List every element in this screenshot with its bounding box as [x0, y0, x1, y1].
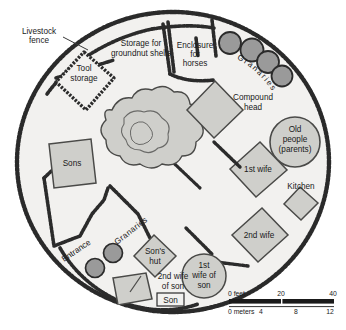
tool-storage-line1: Tool: [76, 64, 91, 73]
scale-meters-tick-4: 4: [259, 308, 263, 315]
scale-meters-tick-8: 8: [294, 308, 298, 315]
old-people-line2: people: [283, 135, 308, 144]
granary-circle: [219, 32, 241, 54]
horses-line3: horses: [183, 59, 208, 68]
granary-circle: [104, 244, 123, 263]
granary-circle: [86, 259, 105, 278]
groundnut-line1: Storage for: [121, 39, 162, 48]
second-wife-of-son-structure: [113, 273, 152, 305]
label-second-wife-of-son: 2nd wife of son: [158, 272, 189, 291]
scale-meters-tick-12: 12: [326, 308, 334, 315]
scale-feet-label: 0 feet: [228, 290, 245, 297]
scale-bar-midtick: [281, 298, 282, 305]
groundnut-line2: groundnut shells: [111, 49, 171, 58]
label-livestock-fence: Livestock fence: [22, 27, 57, 45]
compound-head-line1: Compound: [233, 93, 274, 102]
scale-feet-tick-20: 20: [277, 290, 285, 297]
scale-feet-tick-40: 40: [329, 290, 337, 297]
second-wife-of-son-line1: 2nd wife: [158, 272, 189, 281]
first-wife-of-son-line3: son: [197, 281, 211, 290]
first-wife-of-son-line1: 1st: [199, 261, 211, 270]
label-second-wife: 2nd wife: [244, 231, 275, 240]
compound-head-line2: head: [244, 103, 263, 112]
livestock-fence-line1: Livestock: [22, 27, 57, 36]
old-people-line3: (parents): [279, 145, 312, 154]
horses-line1: Enclosure: [177, 41, 214, 50]
label-son-boxed: Son: [157, 293, 184, 306]
old-people-line1: Old: [289, 125, 302, 134]
label-sons: Sons: [63, 159, 82, 168]
horses-line2: for: [190, 50, 200, 59]
first-wife-of-son-line2: wife of: [191, 271, 216, 280]
sons-hut-line1: Son's: [145, 247, 165, 256]
sons-hut-line2: hut: [149, 257, 161, 266]
tool-storage-line2: storage: [70, 74, 98, 83]
label-kitchen: Kitchen: [287, 182, 315, 191]
livestock-fence-line2: fence: [29, 36, 49, 45]
second-wife-of-son-line2: of son: [162, 282, 185, 291]
label-first-wife: 1st wife: [244, 165, 272, 174]
compound-map-figure: Livestock fence Tool storage Storage for…: [0, 0, 346, 330]
son-text: Son: [163, 296, 178, 305]
scale-meters-label: 0 meters: [228, 308, 255, 315]
compound-plan-svg: Livestock fence Tool storage Storage for…: [0, 0, 346, 330]
scale-bar: 0 feet 20 40 0 meters 4 8 12: [228, 290, 337, 315]
